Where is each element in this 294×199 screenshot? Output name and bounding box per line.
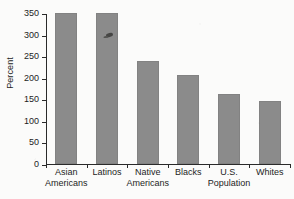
y-tick: 50 [42,143,46,144]
y-axis-line [46,14,47,165]
y-tick-label: 100 [24,116,39,126]
y-tick: 250 [42,57,46,58]
bar [137,61,159,164]
y-tick-label: 250 [24,51,39,61]
y-tick-label: 50 [29,137,39,147]
x-axis-label-line2: Americans [108,178,188,189]
x-axis-label-line1: Whites [256,167,284,177]
y-tick: 300 [42,36,46,37]
y-tick: 200 [42,79,46,80]
y-tick-label: 350 [24,8,39,18]
chart-figure: Percent 050100150200250300350 AsianAmeri… [0,0,294,199]
y-tick: 350 [42,14,46,15]
bar [218,94,240,164]
x-axis-label-line2: Population [189,178,269,189]
y-axis-title: Percent [5,41,15,105]
y-tick-label: 150 [24,94,39,104]
y-tick-label: 300 [24,30,39,40]
y-tick-label: 200 [24,73,39,83]
bar [177,75,199,164]
x-axis-label-line2: Americans [26,178,106,189]
bar [259,101,281,164]
y-tick: 100 [42,122,46,123]
plot-area: 050100150200250300350 AsianAmericansLati… [46,14,290,165]
y-tick: 150 [42,100,46,101]
x-axis-label: Whites [230,167,294,178]
bar [55,13,77,164]
